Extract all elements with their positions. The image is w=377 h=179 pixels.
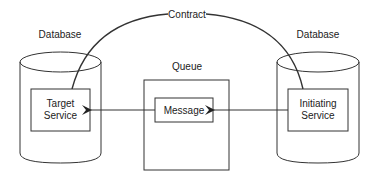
contract-arc-right [206, 14, 303, 89]
service-broker-diagram: Database Database Contract Target Servic… [0, 0, 377, 179]
message-label: Message [164, 105, 205, 116]
target-service-line1: Target [47, 98, 75, 109]
initiating-service-line1: Initiating [299, 98, 336, 109]
contract-label: Contract [168, 9, 206, 20]
contract-arc-left [72, 14, 168, 89]
left-database-label: Database [39, 29, 82, 40]
queue-label: Queue [172, 61, 202, 72]
queue-box [144, 80, 229, 170]
target-service-line2: Service [44, 110, 78, 121]
initiating-service-line2: Service [301, 110, 335, 121]
right-database-label: Database [297, 29, 340, 40]
